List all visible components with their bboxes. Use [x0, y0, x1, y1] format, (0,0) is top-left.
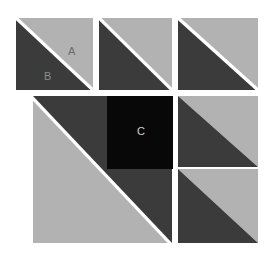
split-square-top-middle [99, 18, 172, 90]
solid-fill [107, 96, 173, 169]
split-square-right-bottom [178, 169, 258, 243]
solid-square-center: C [107, 96, 173, 169]
triangle-tile-figure: ABC [0, 0, 271, 255]
split-square-right-middle [178, 96, 258, 167]
split-square-top-left: AB [16, 18, 93, 90]
split-square-top-right [178, 18, 258, 90]
